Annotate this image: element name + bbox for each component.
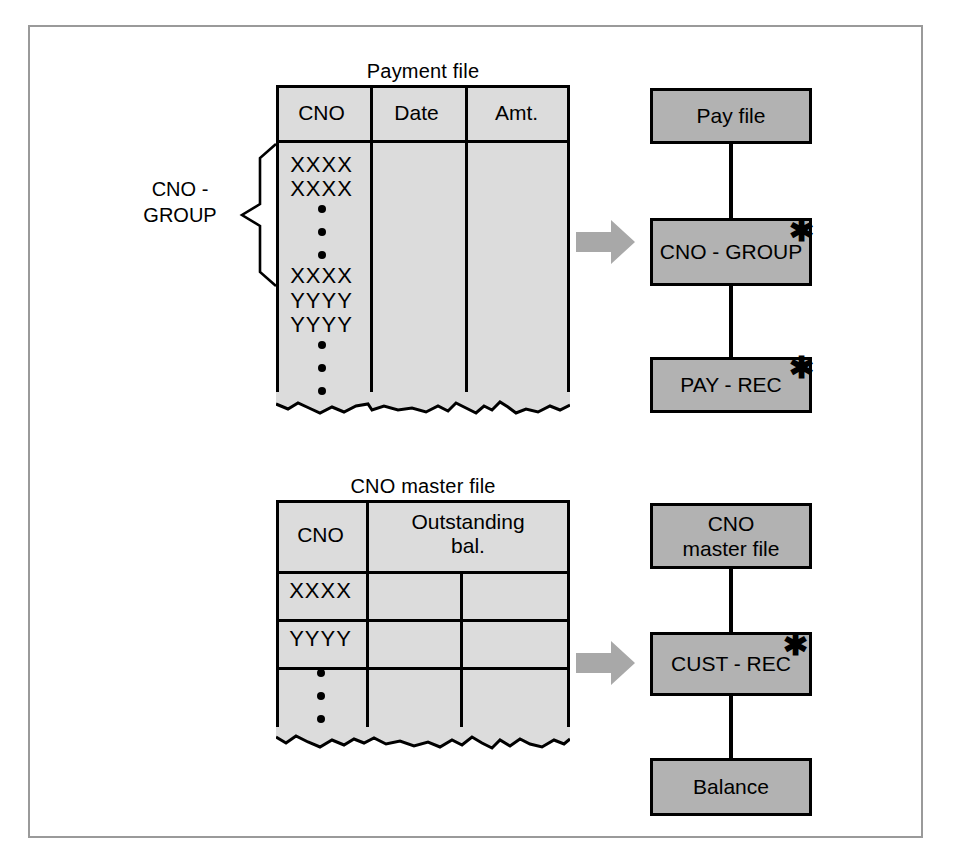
- master-column-header-cno: CNO: [276, 523, 365, 547]
- mapping-arrow-bottom-icon: [576, 640, 636, 686]
- payment-header-rule: [279, 140, 567, 143]
- connector-cnogroup-payrec: [729, 285, 733, 358]
- payment-file-torn-edge: [276, 392, 570, 418]
- payment-cno-entry-2: XXXX: [276, 176, 367, 202]
- box-pay-file[interactable]: Pay file: [650, 88, 812, 144]
- payment-cno-ellipsis-dot-3: [318, 251, 326, 259]
- payment-column-header-amt: Amt.: [465, 101, 568, 125]
- box-cust-rec-star-icon: ✱: [783, 630, 808, 660]
- payment-col-divider-1: [370, 88, 373, 403]
- box-pay-file-label: Pay file: [697, 103, 766, 128]
- master-ellipsis-dot-2: [317, 692, 325, 700]
- master-row-entry-2: YYYY: [276, 626, 365, 652]
- cno-group-brace: [236, 142, 280, 288]
- payment-cno-entry-4: YYYY: [276, 288, 367, 314]
- box-cno-group-label: CNO - GROUP: [660, 239, 802, 264]
- connector-cnomaster-custrec: [729, 568, 733, 632]
- connector-payfile-cnogroup: [729, 143, 733, 218]
- box-balance[interactable]: Balance: [650, 758, 812, 816]
- cno-group-brace-label: CNO - GROUP: [124, 176, 236, 228]
- master-ellipsis-dot-1: [317, 669, 325, 677]
- payment-cno-entry-5: YYYY: [276, 312, 367, 338]
- payment-column-header-date: Date: [370, 101, 463, 125]
- connector-custrec-balance: [729, 695, 733, 758]
- payment-cno-entry-1: XXXX: [276, 152, 367, 178]
- box-cno-group-star-icon: ✱: [789, 216, 814, 246]
- master-col-divider-2: [460, 571, 463, 738]
- payment-cno-entry-3: XXXX: [276, 263, 367, 289]
- payment-cno-ellipsis-dot-5: [318, 364, 326, 372]
- mapping-arrow-top-icon: [576, 219, 636, 265]
- payment-cno-ellipsis-dot-2: [318, 228, 326, 236]
- box-pay-rec[interactable]: PAY - REC: [650, 357, 812, 413]
- payment-cno-ellipsis-dot-1: [318, 205, 326, 213]
- cno-master-file-torn-edge: [276, 727, 570, 753]
- master-row-rule-1: [279, 619, 567, 622]
- master-column-header-outstanding-bal: Outstanding bal.: [366, 510, 570, 557]
- box-cno-master-file-label: CNO master file: [683, 511, 780, 561]
- payment-column-header-cno: CNO: [276, 101, 367, 125]
- payment-file-sheet: [276, 85, 570, 403]
- box-balance-label: Balance: [693, 774, 769, 799]
- master-header-rule: [279, 571, 567, 574]
- payment-file-title: Payment file: [276, 60, 570, 83]
- diagram-canvas: Payment file CNO Date Amt. XXXX XXXX XXX…: [0, 0, 962, 867]
- master-ellipsis-dot-3: [317, 715, 325, 723]
- cno-master-file-title: CNO master file: [276, 475, 570, 498]
- payment-cno-ellipsis-dot-4: [318, 341, 326, 349]
- box-cno-group[interactable]: CNO - GROUP: [650, 218, 812, 286]
- box-cno-master-file[interactable]: CNO master file: [650, 503, 812, 569]
- box-pay-rec-star-icon: ✱: [789, 353, 814, 383]
- master-row-entry-1: XXXX: [276, 578, 365, 604]
- payment-col-divider-2: [465, 88, 468, 403]
- payment-cno-ellipsis-dot-6: [318, 387, 326, 395]
- box-pay-rec-label: PAY - REC: [680, 372, 782, 397]
- box-cust-rec-label: CUST - REC: [671, 651, 791, 676]
